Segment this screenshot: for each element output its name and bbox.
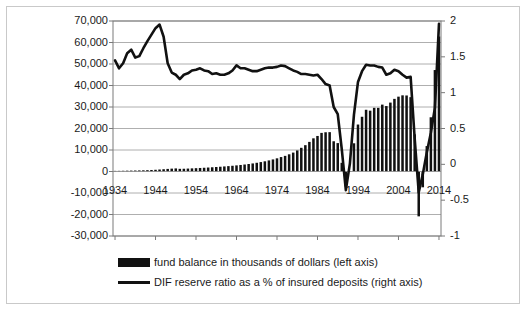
left-axis-tick-label: -20,000 — [20, 208, 108, 220]
right-axis-tick-label: 1.5 — [450, 50, 465, 62]
right-axis-tick-label: -1 — [450, 229, 460, 241]
x-axis-tick-label: 1964 — [217, 184, 257, 196]
left-axis-tick-label: 20,000 — [20, 122, 108, 134]
left-axis-tick-label: 50,000 — [20, 57, 108, 69]
x-axis-tick-label: 1954 — [176, 184, 216, 196]
right-axis-tick-label: 0.5 — [450, 122, 465, 134]
left-axis-tick-label: 10,000 — [20, 143, 108, 155]
left-axis-tick-label: 60,000 — [20, 36, 108, 48]
line-swatch-icon — [118, 281, 150, 284]
left-axis-tick-label: -30,000 — [20, 229, 108, 241]
right-axis-tick-label: 1 — [450, 86, 456, 98]
x-axis-tick-label: 1984 — [297, 184, 337, 196]
right-axis-tick-label: 0 — [450, 157, 456, 169]
x-axis-tick-label: 2004 — [378, 184, 418, 196]
x-axis-tick-label: 1944 — [136, 184, 176, 196]
x-axis-tick-label: 2014 — [419, 184, 459, 196]
legend-label-fund-balance: fund balance in thousands of dollars (le… — [150, 256, 378, 268]
x-axis-tick-label: 1974 — [257, 184, 297, 196]
left-axis-tick-label: 30,000 — [20, 100, 108, 112]
left-axis-tick-label: 70,000 — [20, 14, 108, 26]
x-axis-tick-label: 1994 — [338, 184, 378, 196]
left-axis-tick-label: 0 — [20, 165, 108, 177]
chart-legend: fund balance in thousands of dollars (le… — [118, 252, 448, 292]
x-axis-tick-label: 1934 — [95, 184, 135, 196]
bar-swatch-icon — [118, 258, 150, 267]
right-axis-tick-label: 2 — [450, 14, 456, 26]
gridlines — [113, 21, 441, 236]
left-axis-tick-label: 40,000 — [20, 79, 108, 91]
legend-label-reserve-ratio: DIF reserve ratio as a % of insured depo… — [150, 276, 422, 288]
legend-item-reserve-ratio: DIF reserve ratio as a % of insured depo… — [118, 272, 448, 292]
legend-item-fund-balance: fund balance in thousands of dollars (le… — [118, 252, 448, 272]
